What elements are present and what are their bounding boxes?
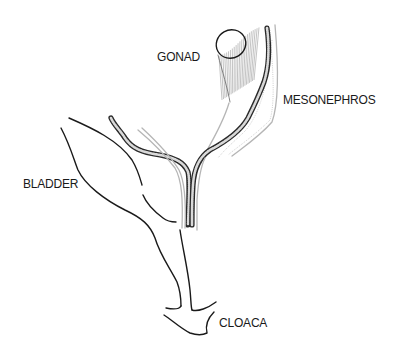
mesonephric-duct (192, 28, 268, 225)
hatch-line (240, 39, 242, 88)
hatch-line (237, 43, 238, 90)
hatch-line (239, 41, 240, 89)
bladder (61, 118, 181, 306)
label-gonad: GONAD (157, 50, 201, 64)
urogenital-diagram: GONAD MESONEPHROS BLADDER CLOACA (0, 0, 399, 363)
hatch-line (225, 54, 227, 98)
cloaca (164, 230, 216, 335)
hatch-line (246, 33, 249, 85)
gonad-mesentery (219, 27, 259, 100)
label-cloaca: CLOACA (219, 316, 267, 330)
label-bladder: BLADDER (23, 177, 79, 191)
label-mesonephros: MESONEPHROS (283, 93, 376, 107)
hatch-line (230, 50, 231, 94)
